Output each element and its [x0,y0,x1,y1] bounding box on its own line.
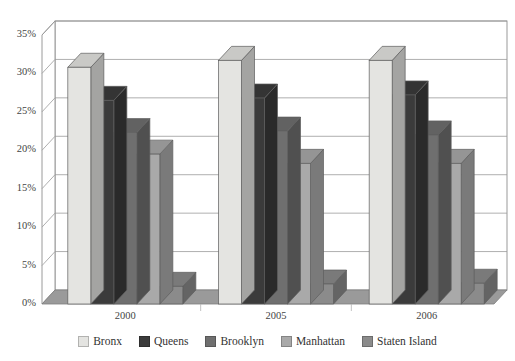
bar-side-face [114,86,127,304]
legend-swatch-icon [139,336,150,347]
legend-label: Queens [154,336,189,348]
bar-bronx-2000 [68,53,104,304]
bar-side-face [461,149,474,304]
chart-legend: BronxQueensBrooklynManhattanStaten Islan… [0,336,515,348]
legend-item-staten-island[interactable]: Staten Island [362,336,437,348]
bar-side-face [311,149,324,304]
bar-side-face [438,121,451,304]
bar-front-face [219,60,242,304]
bar-bronx-2005 [219,46,255,304]
bar-side-face [160,140,173,304]
bar-side-face [392,46,405,304]
legend-label: Bronx [93,336,122,348]
bar-front-face [68,67,91,304]
bar-side-face [137,119,150,304]
legend-swatch-icon [205,336,216,347]
bar-side-face [265,84,278,304]
bar-side-face [288,117,301,304]
legend-item-manhattan[interactable]: Manhattan [281,336,345,348]
bar-side-face [415,81,428,304]
legend-label: Staten Island [377,336,437,348]
legend-item-bronx[interactable]: Bronx [78,336,122,348]
legend-label: Manhattan [296,336,345,348]
legend-swatch-icon [281,336,292,347]
legend-swatch-icon [78,336,89,347]
bars-layer [0,0,515,361]
legend-swatch-icon [362,336,373,347]
bar-front-face [369,60,392,304]
chart-container: 0%5%10%15%20%25%30%35% 200020052006 Bron… [0,0,515,361]
bar-side-face [242,46,255,304]
bar-side-face [91,53,104,304]
legend-item-queens[interactable]: Queens [139,336,189,348]
legend-item-brooklyn[interactable]: Brooklyn [205,336,263,348]
bar-bronx-2006 [369,46,405,304]
legend-label: Brooklyn [220,336,263,348]
